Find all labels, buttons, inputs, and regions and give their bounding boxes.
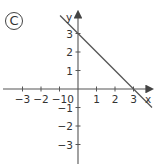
axes [3, 12, 152, 164]
y-axis-label: y [66, 11, 72, 23]
y-tick-label: −3 [58, 139, 73, 151]
x-tick-label: −3 [15, 93, 30, 105]
coordinate-plane: −3−2−1123321−1−2−30 x y [0, 0, 162, 168]
x-tick-label: 1 [93, 93, 100, 105]
x-axis-label: x [145, 93, 151, 105]
x-tick-label: 2 [112, 93, 119, 105]
origin-label: 0 [67, 93, 74, 105]
y-tick-label: 2 [66, 46, 73, 58]
y-tick-label: −2 [58, 120, 73, 132]
x-tick-label: −2 [33, 93, 48, 105]
x-tick-label: 3 [130, 93, 137, 105]
y-tick-label: 1 [66, 65, 73, 77]
y-tick-label: 3 [66, 28, 73, 40]
